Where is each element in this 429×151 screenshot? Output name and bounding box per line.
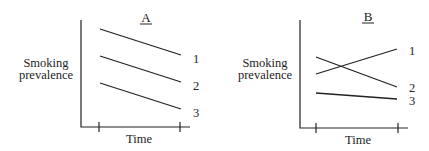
panel-a-ylabel-line2: prevalence bbox=[19, 68, 74, 82]
panel-a-series-label-2: 2 bbox=[193, 79, 199, 93]
panel-a-series-label-1: 1 bbox=[193, 52, 199, 66]
panel-a-title: A bbox=[141, 10, 151, 25]
panel-a-line-3 bbox=[100, 83, 181, 109]
panel-b-line-3 bbox=[316, 93, 397, 99]
panel-a-axes bbox=[81, 20, 190, 127]
panel-b-series-label-2: 2 bbox=[409, 81, 415, 95]
panel-a-series-label-3: 3 bbox=[193, 106, 199, 120]
panel-b: B Smoking prevalence 1 2 3 Time bbox=[238, 9, 415, 147]
panel-a-line-2 bbox=[100, 56, 181, 82]
panel-b-title: B bbox=[364, 9, 373, 24]
panel-b-xlabel: Time bbox=[345, 133, 371, 147]
panel-a-xlabel: Time bbox=[126, 132, 152, 146]
panel-a: A Smoking prevalence 1 2 3 Time bbox=[19, 10, 199, 146]
panel-b-ylabel-line2: prevalence bbox=[238, 68, 293, 82]
panel-a-line-1 bbox=[100, 29, 181, 55]
diagram-canvas: A Smoking prevalence 1 2 3 Time B Smokin… bbox=[0, 0, 429, 151]
panel-b-series-label-3: 3 bbox=[409, 94, 415, 108]
panel-b-series-label-1: 1 bbox=[409, 44, 415, 58]
